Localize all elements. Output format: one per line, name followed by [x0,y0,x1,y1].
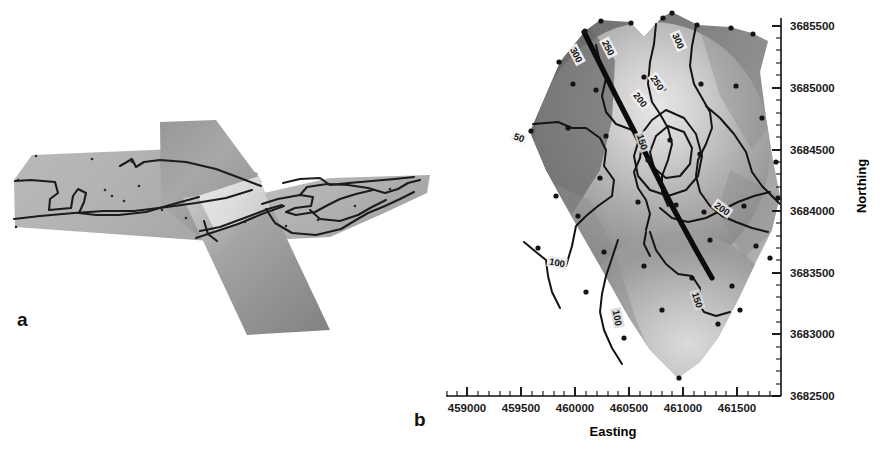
y-tick-label: 3684500 [790,144,835,156]
x-tick-label: 460000 [556,402,594,414]
contour-label-text: 100 [548,256,566,270]
y-tick-label: 3683500 [790,267,835,279]
contour-label: 100 [546,255,568,269]
y-tick-label: 3682500 [790,390,835,402]
y-tick-label: 3685000 [790,82,835,94]
contour-label: 100 [610,307,625,329]
x-axis-tick-labels: 459000 459500 460000 460500 461000 46150… [448,402,756,414]
panel-a-label: a [17,309,28,330]
y-tick-label: 3683000 [790,328,835,340]
x-axis-title: Easting [590,424,637,439]
y-axis-tick-labels: 3685500 3685000 3684500 3684000 3683500 … [790,20,835,402]
panel-a: a [0,0,430,456]
contour-label-text: 100 [610,309,624,327]
x-tick-label: 460500 [610,402,648,414]
figure-container: a [0,0,887,456]
y-tick-label: 3685500 [790,20,835,32]
x-tick-label: 459500 [502,402,540,414]
y-axis-major-ticks [772,26,781,396]
x-axis-major-ticks [467,387,737,396]
y-axis-title: Northing [854,159,869,213]
x-tick-label: 461500 [718,402,756,414]
contour-map-body: 300 250 300 250 [510,10,781,392]
panel-a-graphic: a [0,0,430,456]
y-axis: 3685500 3685000 3684500 3684000 3683500 … [772,18,869,402]
contour-100-sw [524,242,560,308]
panel-a-surfaces [14,120,430,335]
panel-b-label: b [414,409,426,430]
panel-b-graphic: 300 250 300 250 [400,0,887,456]
x-tick-label: 459000 [448,402,486,414]
x-axis: 459000 459500 460000 460500 461000 46150… [446,387,781,439]
contour-label: 50 [510,130,529,146]
panel-b: 300 250 300 250 [400,0,887,456]
x-tick-label: 461000 [664,402,702,414]
y-tick-label: 3684000 [790,205,835,217]
